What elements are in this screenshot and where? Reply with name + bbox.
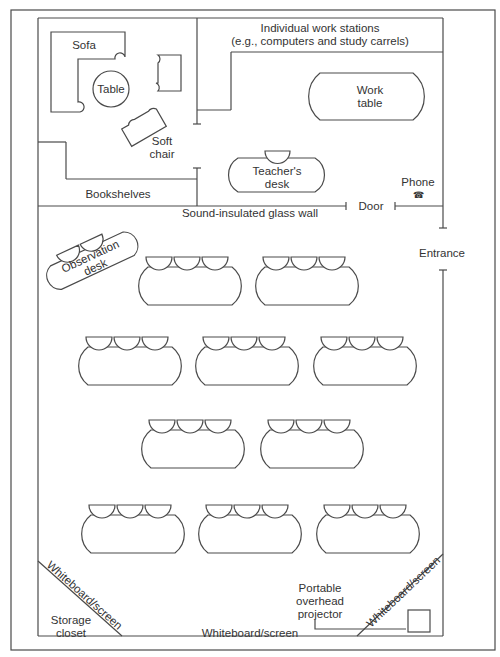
teachers-desk-label-1: Teacher's xyxy=(253,165,302,177)
phone-label: Phone xyxy=(401,176,434,188)
soft-chair-label-2: chair xyxy=(150,148,175,160)
projector-leader-line xyxy=(315,620,406,629)
whiteboard-bottom-label: Whiteboard/screen xyxy=(202,627,299,639)
entrance-label: Entrance xyxy=(419,247,465,259)
observation-desk: Observation desk xyxy=(40,222,142,293)
student-table xyxy=(314,337,417,385)
sofa-label: Sofa xyxy=(72,39,96,51)
work-table-label-2: table xyxy=(358,97,383,109)
projector-label-3: projector xyxy=(298,608,343,620)
work-stations-label-2: (e.g., computers and study carrels) xyxy=(231,35,409,47)
floor-plan: Sofa Table Soft chair Bookshelves Indivi… xyxy=(0,0,500,657)
door-label: Door xyxy=(359,200,384,212)
student-table xyxy=(196,337,299,385)
storage-label-2: closet xyxy=(56,627,87,639)
phone-icon: ☎ xyxy=(413,190,424,200)
glass-wall-label: Sound-insulated glass wall xyxy=(182,207,318,219)
storage-label-1: Storage xyxy=(51,614,91,626)
student-table xyxy=(139,257,242,305)
student-table xyxy=(199,505,302,553)
student-table xyxy=(79,337,182,385)
lounge-chair xyxy=(156,55,181,91)
student-table xyxy=(142,420,245,468)
student-tables xyxy=(79,257,420,553)
soft-chair-label-1: Soft xyxy=(152,135,173,147)
student-table xyxy=(317,505,420,553)
student-table xyxy=(82,505,185,553)
teachers-desk-label-2: desk xyxy=(265,178,290,190)
work-stations-label-1: Individual work stations xyxy=(261,22,380,34)
work-table-label-1: Work xyxy=(357,84,384,96)
projector-label-2: overhead xyxy=(296,595,344,607)
projector xyxy=(408,610,430,632)
student-table xyxy=(261,420,364,468)
table-label: Table xyxy=(97,83,125,95)
projector-label-1: Portable xyxy=(299,582,342,594)
student-table xyxy=(256,257,359,305)
bookshelves-label: Bookshelves xyxy=(85,188,150,200)
